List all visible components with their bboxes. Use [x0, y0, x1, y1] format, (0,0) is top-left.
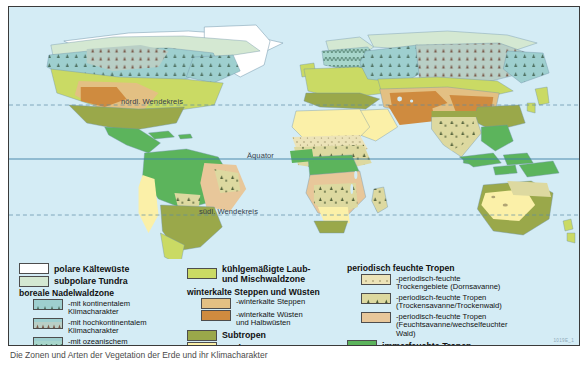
- legend-item-moist-savanna: -periodisch-feuchte Tropen (Feuchtsavann…: [347, 312, 579, 338]
- legend-heading-boreal: boreale Nadelwaldzone: [19, 288, 194, 298]
- swatch-perhumid-tropics: [347, 340, 377, 346]
- label-equator: Äquator: [247, 151, 274, 160]
- legend-item-perhumid-tropics: immerfeuchte Tropen: [347, 340, 579, 346]
- legend-label-dry-tropics: trockene Tropen: [222, 342, 290, 346]
- legend-label-perhumid-tropics: immerfeuchte Tropen: [382, 340, 471, 346]
- legend-label-boreal-continental: -mit kontinentalem Klimacharakter: [68, 299, 130, 317]
- legend-label-subpolar-tundra: subpolare Tundra: [54, 276, 128, 287]
- legend-label-thorn-savanna: -periodisch-feuchte Trockengebiete (Dorn…: [396, 274, 500, 292]
- legend-item-dry-tropics: trockene Tropen: [187, 342, 347, 346]
- swatch-boreal-continental: [33, 299, 63, 310]
- legend-item-subtropics: Subtropen: [187, 330, 347, 341]
- legend-label-moist-savanna: -periodisch-feuchte Tropen (Feuchtsavann…: [396, 312, 507, 338]
- legend-label-cool-temperate-forest: kühlgemäßigte Laub- und Mischwaldzone: [222, 263, 310, 284]
- legend-label-cold-desert: -winterkalte Wüsten und Halbwüsten: [236, 310, 303, 328]
- figure-reference-code: 1019E_1: [554, 338, 575, 343]
- legend-label-dry-savanna: -periodisch-feuchte Tropen (Trockensavan…: [396, 293, 502, 311]
- legend-label-subtropics: Subtropen: [222, 330, 266, 341]
- world-map: nördl. Wendekreis Äquator südl. Wendekre…: [9, 7, 579, 259]
- swatch-cold-steppe: [201, 298, 231, 309]
- swatch-cold-desert: [201, 310, 231, 321]
- swatch-dry-savanna: [361, 293, 391, 304]
- swatch-boreal-oceanic: [33, 337, 63, 346]
- map-legend: polare Kältewüste subpolare Tundra borea…: [9, 259, 579, 345]
- swatch-dry-tropics: [187, 342, 217, 346]
- legend-item-thorn-savanna: -periodisch-feuchte Trockengebiete (Dorn…: [347, 274, 579, 292]
- swatch-cool-temperate-forest: [187, 268, 217, 279]
- legend-item-cold-desert: -winterkalte Wüsten und Halbwüsten: [187, 310, 347, 328]
- legend-heading-periodic-humid-tropics: periodisch feuchte Tropen: [347, 263, 579, 273]
- legend-item-boreal-oceanic: -mit ozeanischem Klimacharakter: [19, 337, 194, 346]
- legend-item-boreal-continental: -mit kontinentalem Klimacharakter: [19, 299, 194, 317]
- legend-item-cool-temperate-forest: kühlgemäßigte Laub- und Mischwaldzone: [187, 263, 347, 284]
- label-tropic-of-cancer: nördl. Wendekreis: [121, 97, 183, 106]
- legend-column-right: periodisch feuchte Tropen: [347, 263, 579, 346]
- legend-item-subpolar-tundra: subpolare Tundra: [19, 276, 194, 287]
- pattern-conifer-dense-icon: [34, 322, 63, 329]
- pattern-tree-icon: [362, 297, 391, 304]
- legend-label-polar-desert: polare Kältewüste: [54, 263, 129, 274]
- legend-label-cold-steppe: -winterkalte Steppen: [236, 298, 305, 307]
- legend-item-boreal-highcontinental: -mit hochkontinentalem Klimacharakter: [19, 318, 194, 336]
- pattern-zigzag-icon: [34, 341, 63, 346]
- label-tropic-of-capricorn: südl. Wendekreis: [199, 207, 258, 216]
- legend-label-boreal-oceanic: -mit ozeanischem Klimacharakter: [68, 337, 128, 346]
- world-map-svg: [9, 7, 579, 259]
- swatch-moist-savanna: [361, 312, 391, 323]
- swatch-boreal-highcontinental: [33, 318, 63, 329]
- screenshot-root: nördl. Wendekreis Äquator südl. Wendekre…: [0, 0, 588, 370]
- legend-label-boreal-highcontinental: -mit hochkontinentalem Klimacharakter: [68, 318, 147, 336]
- legend-column-middle: kühlgemäßigte Laub- und Mischwaldzone wi…: [187, 263, 347, 346]
- swatch-polar-desert: [19, 263, 49, 274]
- legend-item-cold-steppe: -winterkalte Steppen: [187, 298, 347, 309]
- pattern-dots-icon: [362, 278, 391, 285]
- swatch-subpolar-tundra: [19, 276, 49, 287]
- swatch-thorn-savanna: [361, 274, 391, 285]
- pattern-conifer-icon: [34, 303, 63, 310]
- map-figure: nördl. Wendekreis Äquator südl. Wendekre…: [8, 6, 580, 346]
- legend-item-polar-desert: polare Kältewüste: [19, 263, 194, 274]
- swatch-subtropics: [187, 330, 217, 341]
- legend-item-dry-savanna: -periodisch-feuchte Tropen (Trockensavan…: [347, 293, 579, 311]
- legend-heading-cold-steppe-desert: winterkalte Steppen und Wüsten: [187, 287, 347, 297]
- legend-column-left: polare Kältewüste subpolare Tundra borea…: [19, 263, 194, 346]
- figure-caption: Die Zonen und Arten der Vegetation der E…: [10, 350, 570, 366]
